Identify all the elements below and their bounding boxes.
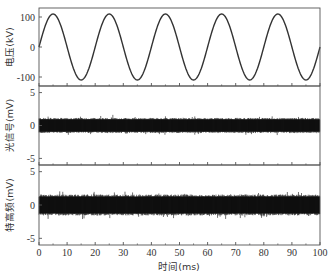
series-optical-signal: [39, 115, 320, 135]
stacked-signal-chart: 1000-100电压(kV)50-5光信号(mV)50-5特高频(mV) 010…: [0, 0, 330, 280]
x-tick-label: 100: [313, 247, 328, 258]
x-tick-label: 30: [118, 247, 128, 258]
y-tick-label: 0: [30, 200, 35, 211]
x-tick-label: 0: [37, 247, 42, 258]
panel-voltage: 1000-100电压(kV): [4, 8, 320, 86]
panel-optical-signal: 50-5光信号(mV): [4, 86, 320, 165]
y-tick-label: 0: [30, 120, 35, 131]
panel-uhf: 50-5特高频(mV): [4, 165, 320, 245]
x-tick-label: 90: [287, 247, 297, 258]
x-axis: 0102030405060708090100: [37, 247, 328, 258]
y-tick-label: 5: [30, 87, 35, 98]
x-tick-label: 80: [259, 247, 269, 258]
y-axis-label-voltage: 电压(kV): [4, 27, 15, 66]
y-axis-label-uhf: 特高频(mV): [4, 178, 15, 231]
x-tick-label: 50: [175, 247, 185, 258]
y-tick-label: 100: [20, 12, 35, 23]
y-tick-label: 0: [30, 42, 35, 53]
x-tick-label: 20: [90, 247, 100, 258]
x-tick-label: 40: [146, 247, 156, 258]
series-voltage: [39, 14, 320, 80]
y-tick-label: 5: [30, 166, 35, 177]
y-tick-label: -5: [27, 233, 35, 244]
y-axis-label-optical-signal: 光信号(mV): [4, 99, 15, 152]
y-tick-label: -5: [27, 153, 35, 164]
x-tick-label: 10: [62, 247, 72, 258]
series-uhf: [39, 191, 320, 219]
x-tick-label: 60: [203, 247, 213, 258]
x-axis-label: 时间(ms): [158, 261, 200, 272]
x-tick-label: 70: [231, 247, 241, 258]
y-tick-label: -100: [17, 72, 35, 83]
